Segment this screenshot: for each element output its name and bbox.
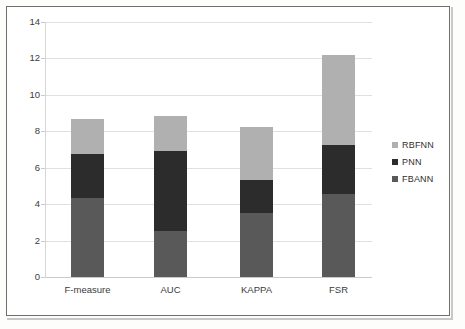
bar-segment-fbann[interactable] [71, 198, 104, 277]
legend-swatch-icon [392, 159, 398, 165]
y-tick-label: 8 [2, 126, 40, 136]
x-tick-label: FSR [294, 284, 384, 295]
y-tick-label: 2 [2, 236, 40, 246]
bar-segment-pnn[interactable] [154, 151, 187, 230]
y-tick-mark [41, 58, 45, 59]
y-tick-mark [41, 204, 45, 205]
y-tick-mark [41, 168, 45, 169]
legend-item[interactable]: FBANN [392, 170, 458, 187]
bar-group[interactable] [154, 22, 187, 277]
gridline-0 [45, 277, 372, 278]
bar-series-container [45, 22, 372, 277]
y-tick-label: 12 [2, 53, 40, 63]
bar-segment-rbfnn[interactable] [71, 119, 104, 155]
bar-segment-fbann[interactable] [322, 194, 355, 277]
y-tick-mark [41, 95, 45, 96]
legend-swatch-icon [392, 176, 398, 182]
legend-item[interactable]: RBFNN [392, 136, 458, 153]
bar-segment-fbann[interactable] [154, 231, 187, 277]
chart-legend: RBFNNPNNFBANN [392, 136, 458, 187]
bar-segment-rbfnn[interactable] [322, 55, 355, 145]
bar-segment-fbann[interactable] [240, 213, 273, 277]
bar-segment-pnn[interactable] [240, 180, 273, 213]
bar-group[interactable] [240, 22, 273, 277]
y-axis: 14121086420 [0, 22, 40, 277]
y-tick-mark [41, 277, 45, 278]
bar-group[interactable] [71, 22, 104, 277]
x-tick-label: AUC [126, 284, 216, 295]
x-tick-label: KAPPA [212, 284, 302, 295]
bar-segment-pnn[interactable] [71, 154, 104, 198]
bar-group[interactable] [322, 22, 355, 277]
y-tick-label: 10 [2, 90, 40, 100]
y-tick-label: 6 [2, 163, 40, 173]
legend-swatch-icon [392, 142, 398, 148]
legend-label: PNN [402, 157, 422, 167]
bar-segment-pnn[interactable] [322, 145, 355, 194]
y-tick-mark [41, 131, 45, 132]
legend-label: RBFNN [402, 140, 434, 150]
legend-item[interactable]: PNN [392, 153, 458, 170]
y-tick-mark [41, 22, 45, 23]
y-tick-label: 0 [2, 272, 40, 282]
x-tick-label: F-measure [43, 284, 133, 295]
chart-figure: 14121086420 F-measureAUCKAPPAFSR RBFNNPN… [0, 0, 465, 329]
y-tick-label: 14 [2, 17, 40, 27]
y-tick-mark [41, 241, 45, 242]
bar-segment-rbfnn[interactable] [240, 127, 273, 181]
y-tick-label: 4 [2, 199, 40, 209]
legend-label: FBANN [402, 174, 434, 184]
bar-segment-rbfnn[interactable] [154, 116, 187, 152]
